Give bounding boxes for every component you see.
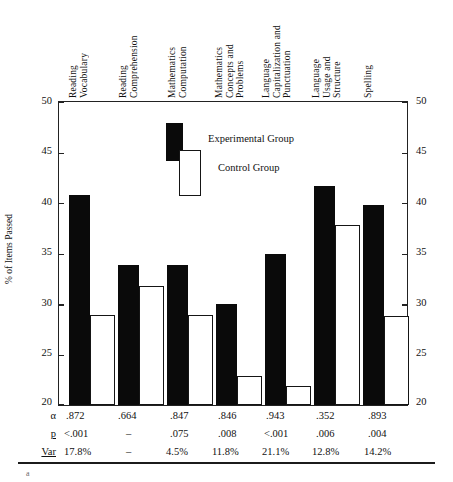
- stats-p-language-capitalization: <.001: [264, 428, 308, 439]
- category-label-language-usage-and-structure: Language Usage and Structure: [311, 22, 343, 98]
- stats-p-mathematics-computation: .075: [170, 428, 214, 439]
- legend-label-control: Control Group: [218, 162, 280, 173]
- bar-control-language-capitalization-and-punctuation: [286, 386, 311, 405]
- y-tick-label-left-20: 20: [30, 396, 52, 407]
- category-label-reading-vocabulary: Reading Vocabulary: [68, 18, 89, 98]
- bottom-rule: [18, 462, 435, 464]
- stats-var-reading-vocabulary: 17.8%: [64, 446, 108, 457]
- y-tick-label-left-40: 40: [30, 196, 52, 207]
- stats-p-reading-comprehension: –: [126, 428, 170, 439]
- legend-label-experimental: Experimental Group: [208, 133, 294, 144]
- stats-var-spelling: 14.2%: [364, 446, 408, 457]
- stats-p-reading-vocabulary: <.001: [64, 428, 108, 439]
- category-label-language-capitalization-and-punctuation: Language Capitalization and Punctuation: [261, 6, 293, 98]
- bar-control-language-usage-and-structure: [335, 225, 360, 405]
- category-label-spelling: Spelling: [363, 44, 374, 98]
- tick-right-30: [402, 304, 407, 305]
- y-tick-label-right-25: 25: [416, 347, 438, 358]
- bar-control-mathematics-computation: [188, 315, 213, 405]
- category-label-reading-comprehension: Reading Comprehension: [118, 8, 139, 98]
- tick-left-20: [59, 404, 64, 405]
- bar-experimental-reading-comprehension: [118, 265, 139, 405]
- tick-right-45: [402, 153, 407, 154]
- bar-control-spelling: [384, 316, 409, 405]
- bar-experimental-mathematics-computation: [167, 265, 188, 405]
- stats-row-label-alpha: α: [26, 410, 56, 421]
- stats-p-language-usage: .006: [316, 428, 360, 439]
- stats-alpha-language-capitalization: .943: [266, 410, 310, 421]
- tick-right-40: [402, 203, 407, 204]
- stats-alpha-mathematics-computation: .847: [170, 410, 214, 421]
- bar-control-mathematics-concepts-and-problems: [237, 376, 262, 405]
- y-tick-label-right-40: 40: [416, 196, 438, 207]
- stats-row-label-var: Var: [18, 446, 56, 457]
- bar-control-reading-comprehension: [139, 286, 164, 405]
- stats-alpha-spelling: .893: [368, 410, 412, 421]
- y-tick-label-right-35: 35: [416, 246, 438, 257]
- y-tick-label-right-45: 45: [416, 145, 438, 156]
- stats-var-language-usage: 12.8%: [312, 446, 356, 457]
- stats-var-language-capitalization: 21.1%: [262, 446, 306, 457]
- tick-right-50: [402, 102, 407, 103]
- stats-p-spelling: .004: [368, 428, 412, 439]
- category-label-mathematics-computation: Mathematics Computation: [167, 12, 188, 98]
- y-tick-label-left-25: 25: [30, 347, 52, 358]
- bar-experimental-mathematics-concepts-and-problems: [216, 304, 237, 405]
- bar-control-reading-vocabulary: [90, 315, 115, 405]
- tick-left-40: [59, 203, 64, 204]
- y-tick-label-left-50: 50: [30, 95, 52, 106]
- stats-var-mathematics-concepts: 11.8%: [212, 446, 256, 457]
- legend-swatch-control: [179, 150, 201, 196]
- stats-alpha-mathematics-concepts: .846: [218, 410, 262, 421]
- stats-alpha-reading-vocabulary: .872: [66, 410, 110, 421]
- bar-experimental-language-usage-and-structure: [314, 186, 335, 406]
- stats-row-alpha: α .872 .664 .847 .846 .943 .352 .893: [0, 410, 453, 426]
- stats-alpha-reading-comprehension: .664: [118, 410, 162, 421]
- y-tick-label-right-30: 30: [416, 297, 438, 308]
- bar-experimental-language-capitalization-and-punctuation: [265, 254, 286, 405]
- stats-var-mathematics-computation: 4.5%: [166, 446, 210, 457]
- bar-experimental-reading-vocabulary: [69, 195, 90, 405]
- category-label-mathematics-concepts-and-problems: Mathematics Concepts and Problems: [214, 18, 246, 98]
- chart-figure: Reading Vocabulary Reading Comprehension…: [0, 0, 453, 482]
- statistics-table: α .872 .664 .847 .846 .943 .352 .893 p <…: [0, 410, 453, 462]
- footnote-marker: a: [26, 469, 30, 478]
- stats-var-reading-comprehension: –: [126, 446, 170, 457]
- tick-right-35: [402, 254, 407, 255]
- stats-row-var: Var 17.8% – 4.5% 11.8% 21.1% 12.8% 14.2%: [0, 446, 453, 462]
- tick-left-50: [59, 102, 64, 103]
- y-axis-label: % of Items Passed: [4, 214, 14, 284]
- stats-row-p: p <.001 – .075 .008 <.001 .006 .004: [0, 428, 453, 444]
- stats-p-mathematics-concepts: .008: [218, 428, 262, 439]
- tick-left-30: [59, 304, 64, 305]
- stats-row-label-p: p: [26, 428, 56, 439]
- y-tick-label-right-20: 20: [416, 396, 438, 407]
- y-tick-label-left-35: 35: [30, 246, 52, 257]
- y-tick-label-left-45: 45: [30, 145, 52, 156]
- tick-left-25: [59, 355, 64, 356]
- bar-experimental-spelling: [363, 205, 384, 405]
- tick-left-35: [59, 254, 64, 255]
- plot-area: [58, 101, 408, 406]
- stats-alpha-language-usage: .352: [316, 410, 360, 421]
- y-tick-label-right-50: 50: [416, 95, 438, 106]
- tick-left-45: [59, 153, 64, 154]
- y-tick-label-left-30: 30: [30, 297, 52, 308]
